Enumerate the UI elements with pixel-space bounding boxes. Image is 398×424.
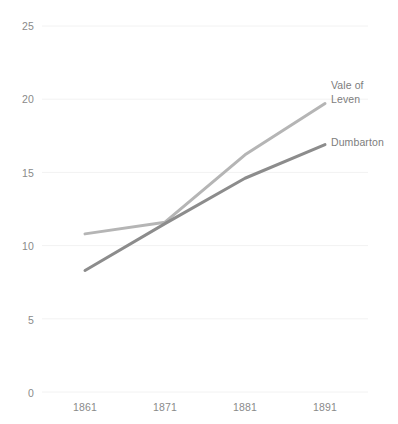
chart-canvas xyxy=(0,0,398,424)
y-tick-label: 0 xyxy=(6,388,34,399)
y-tick-label: 25 xyxy=(6,21,34,32)
y-tick-label: 10 xyxy=(6,241,34,252)
x-tick-label: 1881 xyxy=(222,402,268,413)
gridlines-group xyxy=(42,26,368,392)
series-line-vale-of-leven xyxy=(85,104,325,234)
y-tick-label: 20 xyxy=(6,94,34,105)
line-chart: 2520151050 1861187118811891 Vale of Leve… xyxy=(0,0,398,424)
series-label-dumbarton: Dumbarton xyxy=(331,136,384,150)
series-label-vale-of-leven: Vale of Leven xyxy=(331,79,364,106)
y-tick-label: 5 xyxy=(6,315,34,326)
x-tick-label: 1871 xyxy=(142,402,188,413)
series-line-dumbarton xyxy=(85,145,325,271)
x-tick-label: 1861 xyxy=(62,402,108,413)
y-tick-label: 15 xyxy=(6,168,34,179)
x-tick-label: 1891 xyxy=(302,402,348,413)
